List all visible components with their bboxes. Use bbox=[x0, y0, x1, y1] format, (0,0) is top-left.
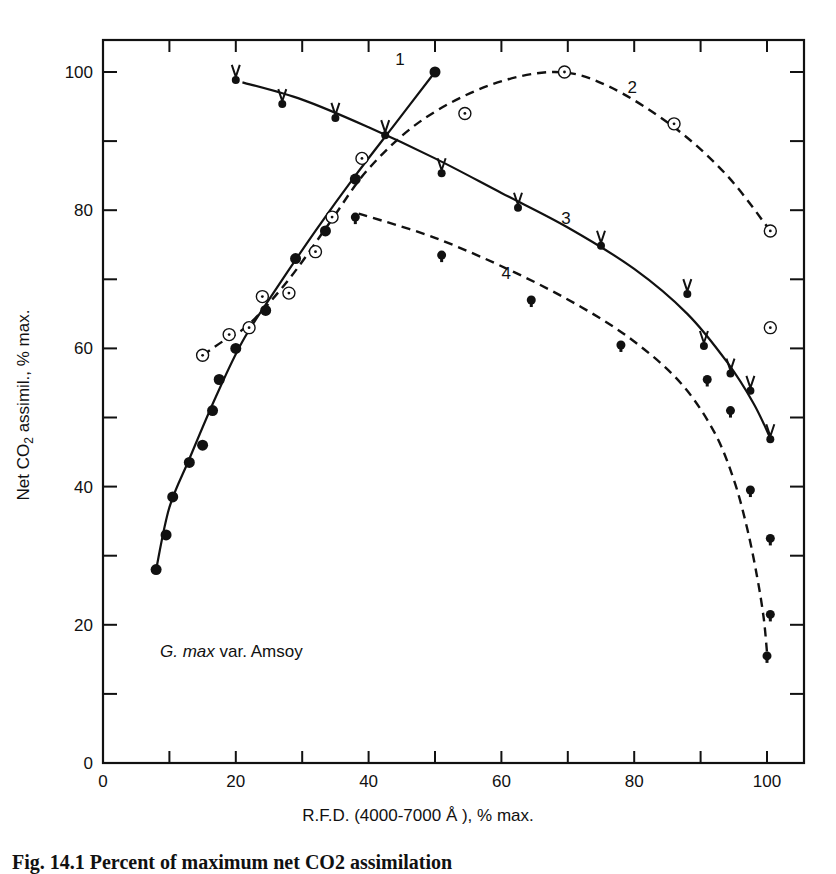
figure-caption: Fig. 14.1 Percent of maximum net CO2 ass… bbox=[12, 851, 452, 874]
x-tick-label: 40 bbox=[359, 772, 378, 791]
v-marker-glyph bbox=[597, 231, 605, 243]
y-tick-label: 100 bbox=[65, 63, 93, 82]
axis-ticks: 020406080100020406080100 bbox=[65, 40, 804, 791]
x-axis-label: R.F.D. (4000-7000 Å ), % max. bbox=[0, 806, 836, 826]
fit-curves bbox=[156, 72, 770, 652]
pin-marker-stem bbox=[530, 300, 533, 307]
filled-circle-marker bbox=[161, 529, 172, 540]
filled-circle-marker bbox=[151, 564, 162, 575]
filled-circle-marker bbox=[290, 253, 301, 264]
filled-circle-marker bbox=[320, 225, 331, 236]
pin-marker-stem bbox=[440, 255, 443, 262]
v-marker-glyph bbox=[746, 376, 754, 388]
v-marker-glyph bbox=[278, 89, 286, 101]
pin-marker-stem bbox=[354, 217, 357, 224]
pin-marker-stem bbox=[749, 490, 752, 497]
filled-circle-marker bbox=[260, 305, 271, 316]
pin-marker-stem bbox=[766, 656, 769, 663]
v-marker-glyph bbox=[438, 158, 446, 170]
v-marker-glyph bbox=[683, 279, 691, 291]
x-tick-label: 0 bbox=[98, 772, 107, 791]
curve-3 bbox=[242, 82, 770, 438]
filled-circle-marker bbox=[207, 405, 218, 416]
pin-marker-stem bbox=[769, 614, 772, 621]
curve-label-3: 3 bbox=[561, 209, 570, 228]
circled-dot-center bbox=[769, 230, 772, 233]
filled-circle-marker bbox=[430, 67, 441, 78]
circled-dot-center bbox=[228, 333, 231, 336]
filled-circle-marker bbox=[350, 174, 361, 185]
circled-dot-center bbox=[673, 122, 676, 125]
circled-dot-center bbox=[361, 157, 364, 160]
curve-label-1: 1 bbox=[395, 50, 404, 69]
filled-circle-marker bbox=[230, 343, 241, 354]
y-tick-label: 60 bbox=[74, 339, 93, 358]
pin-marker-stem bbox=[706, 379, 709, 386]
curve-label-4: 4 bbox=[501, 264, 510, 283]
pin-marker-stem bbox=[729, 411, 732, 418]
circled-dot-center bbox=[563, 71, 566, 74]
species-annotation: G. max var. Amsoy bbox=[160, 642, 303, 662]
data-points bbox=[151, 65, 777, 663]
curve-4 bbox=[359, 214, 767, 653]
curve-label-2: 2 bbox=[628, 78, 637, 97]
curve-1 bbox=[156, 72, 435, 570]
v-marker-glyph bbox=[381, 120, 389, 132]
filled-circle-marker bbox=[167, 491, 178, 502]
y-axis-label: Net CO2 assimil., % max. bbox=[14, 310, 36, 501]
y-tick-label: 20 bbox=[74, 616, 93, 635]
x-tick-label: 80 bbox=[625, 772, 644, 791]
circled-dot-center bbox=[201, 354, 204, 357]
filled-circle-marker bbox=[197, 440, 208, 451]
circled-dot-center bbox=[288, 292, 291, 295]
filled-circle-marker bbox=[214, 374, 225, 385]
y-tick-label: 0 bbox=[84, 754, 93, 773]
x-tick-label: 20 bbox=[226, 772, 245, 791]
circled-dot-center bbox=[314, 250, 317, 253]
pin-marker-stem bbox=[769, 538, 772, 545]
pin-marker-stem bbox=[619, 345, 622, 352]
circled-dot-center bbox=[331, 216, 334, 219]
v-marker-glyph bbox=[726, 359, 734, 371]
y-tick-label: 40 bbox=[74, 478, 93, 497]
circled-dot-center bbox=[769, 326, 772, 329]
v-marker-glyph bbox=[232, 65, 240, 77]
circled-dot-center bbox=[463, 112, 466, 115]
filled-circle-marker bbox=[184, 457, 195, 468]
y-tick-label: 80 bbox=[74, 201, 93, 220]
circled-dot-center bbox=[248, 326, 251, 329]
circled-dot-center bbox=[261, 295, 264, 298]
x-tick-label: 100 bbox=[753, 772, 781, 791]
x-tick-label: 60 bbox=[492, 772, 511, 791]
